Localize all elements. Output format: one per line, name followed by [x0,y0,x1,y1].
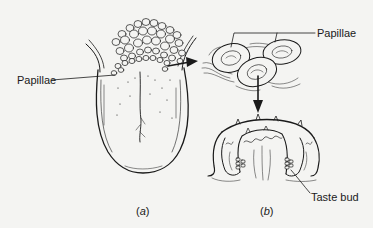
papillae-leader-line-a [52,75,115,80]
papillae-label-a: Papillae [17,75,56,86]
panel-a-caption: (a) [136,206,149,217]
tongue-papillae-figure: Papillae Papillae Taste bud (a) (b) [0,0,373,228]
papilla-cross-section [208,114,319,182]
papillae-label-b: Papillae [317,28,356,39]
panel-b-caption: (b) [260,206,273,217]
papillae-surface-drawing [202,37,302,91]
taste-bud-label: Taste bud [311,192,359,203]
papillae-cluster [111,19,185,76]
